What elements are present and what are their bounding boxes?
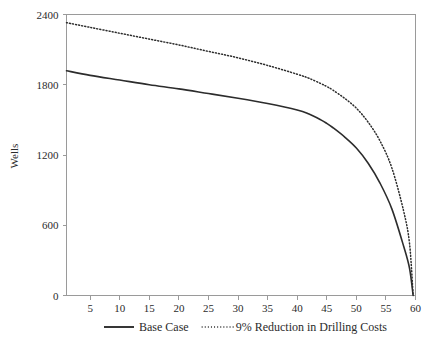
x-tick-label: 25 <box>203 302 215 314</box>
x-tick-label: 20 <box>173 302 185 314</box>
x-tick-label: 55 <box>380 302 392 314</box>
y-tick-label: 0 <box>53 290 59 302</box>
y-axis-title: Wells <box>8 144 20 169</box>
legend-label-reduction: 9% Reduction in Drilling Costs <box>236 320 388 334</box>
chart-background <box>0 0 434 344</box>
y-tick-label: 1800 <box>37 79 60 91</box>
x-tick-label: 30 <box>233 302 245 314</box>
x-tick-label: 15 <box>144 302 156 314</box>
wells-line-chart: 0600120018002400 51015202530354045505560… <box>0 0 434 344</box>
x-tick-label: 10 <box>114 302 126 314</box>
y-tick-label: 1200 <box>37 149 60 161</box>
x-tick-label: 5 <box>87 302 93 314</box>
x-tick-label: 50 <box>351 302 363 314</box>
chart-figure: 0600120018002400 51015202530354045505560… <box>0 0 434 344</box>
chart-legend: Base Case9% Reduction in Drilling Costs <box>104 320 387 334</box>
x-tick-label: 35 <box>262 302 274 314</box>
x-tick-label: 40 <box>292 302 304 314</box>
legend-label-base-case: Base Case <box>139 320 189 334</box>
x-tick-label: 45 <box>321 302 333 314</box>
x-tick-label: 60 <box>410 302 422 314</box>
y-tick-label: 2400 <box>37 9 60 21</box>
y-tick-label: 600 <box>42 219 59 231</box>
